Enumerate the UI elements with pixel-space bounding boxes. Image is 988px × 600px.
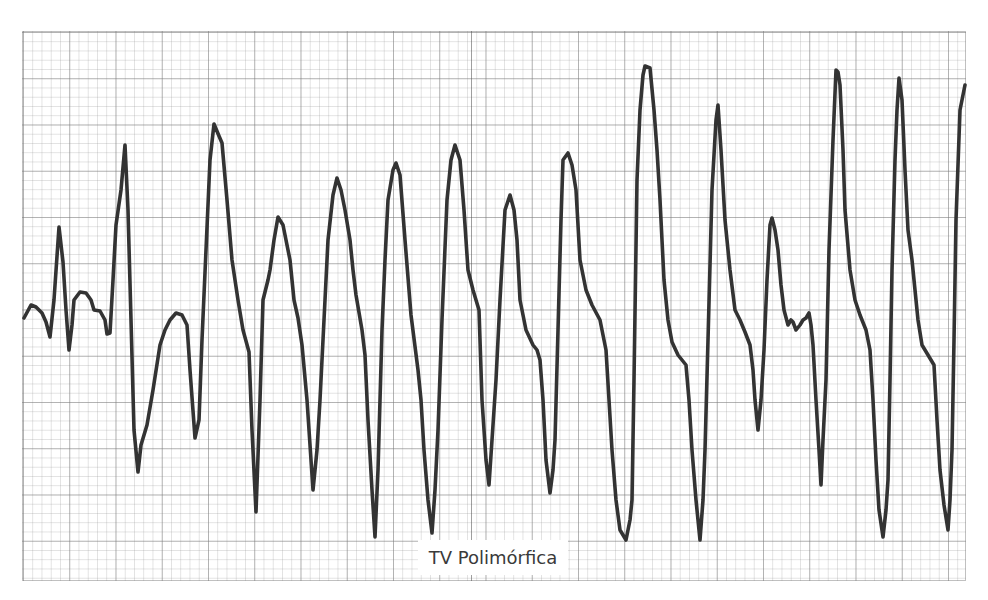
ecg-trace [0, 0, 988, 600]
caption-box: TV Polimórfica [418, 540, 568, 575]
ecg-waveform-line [24, 66, 965, 540]
caption-text: TV Polimórfica [429, 547, 557, 568]
